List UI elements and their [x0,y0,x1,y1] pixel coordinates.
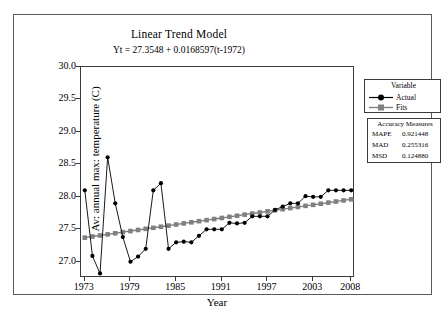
data-point [265,209,270,214]
data-point [334,199,339,204]
legend-label-actual: Actual [396,93,416,102]
data-point [311,195,315,199]
x-tick-label: 2003 [292,281,332,292]
accuracy-row-mad: MAD 0.255316 [368,141,442,151]
data-point [128,229,133,234]
data-point [235,221,239,225]
data-point [288,206,293,211]
data-point [128,260,132,264]
y-tick-label: 30.0 [46,61,76,71]
y-tick-label: 27.0 [46,256,76,266]
data-point [349,188,353,192]
y-tick-label: 27.5 [46,223,76,233]
data-point [227,215,232,220]
data-point [265,214,269,218]
data-point [303,194,307,198]
data-point [182,240,186,244]
x-tick-mark [312,277,313,281]
x-tick-mark [84,277,85,281]
plot-area: Av: annual max: temperature (C) [80,66,354,277]
legend-sample-fits-icon [368,102,394,113]
accuracy-row-mape: MAPE 0.921448 [368,130,442,140]
figure-frame: Linear Trend Model Yt = 27.3548 + 0.0168… [13,14,432,295]
data-point [204,218,209,223]
y-tick-mark [76,66,80,67]
accuracy-value-msd: 0.124880 [402,152,428,160]
x-tick-label: 1985 [155,281,195,292]
data-point [121,235,125,239]
data-point [242,212,247,217]
data-point [166,223,171,228]
page-title: Linear Trend Model [14,28,344,40]
accuracy-label-mad: MAD [372,141,388,149]
data-point [341,188,345,192]
data-point [159,181,163,185]
data-point [106,155,110,159]
x-tick-mark [350,277,351,281]
data-point [273,208,277,212]
data-point [159,224,164,229]
legend-label-fits: Fits [396,103,407,112]
data-point [250,214,254,218]
data-point [212,217,217,222]
chart-screenshot: Linear Trend Model Yt = 27.3548 + 0.0168… [0,0,445,315]
series-actual [83,155,354,275]
actual-line [85,157,351,273]
data-point [303,204,308,209]
y-tick-mark [76,163,80,164]
data-point [189,220,194,225]
data-point [212,227,216,231]
data-point [204,227,208,231]
data-point [311,203,316,208]
chart-equation-subtitle: Yt = 27.3548 + 0.0168597(t-1972) [14,45,344,55]
accuracy-value-mape: 0.921448 [402,130,428,138]
x-axis-tick-labels: 1973197919851991199720032008 [80,281,354,295]
actual-markers [83,155,354,275]
data-point [151,226,156,231]
data-point [288,201,292,205]
y-tick-label: 28.5 [46,158,76,168]
data-point [113,231,118,236]
y-tick-mark [76,196,80,197]
legend-entry-fits[interactable]: Fits [368,102,440,113]
data-point [243,221,247,225]
data-point [181,221,186,226]
plot-canvas [81,67,355,278]
accuracy-row-msd: MSD 0.124880 [368,152,442,162]
accuracy-measures-title: Accuracy Measures [368,120,442,128]
y-tick-mark [76,228,80,229]
data-point [83,235,88,240]
data-point [296,201,300,205]
data-point [136,228,141,233]
data-point [334,188,338,192]
data-point [341,198,346,203]
accuracy-label-msd: MSD [372,152,387,160]
accuracy-measures-box: Accuracy Measures MAPE 0.921448 MAD 0.25… [367,118,441,163]
data-point [235,213,240,218]
data-point [113,201,117,205]
data-point [326,188,330,192]
x-tick-label: 1973 [64,281,104,292]
data-point [258,214,262,218]
data-point [318,201,323,206]
data-point [144,247,148,251]
y-tick-mark [76,131,80,132]
data-point [281,204,285,208]
y-tick-label: 28.0 [46,191,76,201]
x-tick-label: 1991 [201,281,241,292]
data-point [326,200,331,205]
data-point [349,197,354,202]
y-axis-tick-labels: 27.027.528.028.529.029.530.0 [42,66,76,277]
x-tick-label: 2008 [330,281,370,292]
legend-title: Variable [365,81,442,90]
x-axis-title: Year [80,296,354,308]
data-point [174,240,178,244]
y-tick-label: 29.5 [46,93,76,103]
x-tick-label: 1997 [246,281,286,292]
x-tick-label: 1979 [109,281,149,292]
data-point [143,227,148,232]
data-point [197,219,202,224]
y-tick-mark [76,98,80,99]
x-tick-mark [175,277,176,281]
x-tick-mark [266,277,267,281]
